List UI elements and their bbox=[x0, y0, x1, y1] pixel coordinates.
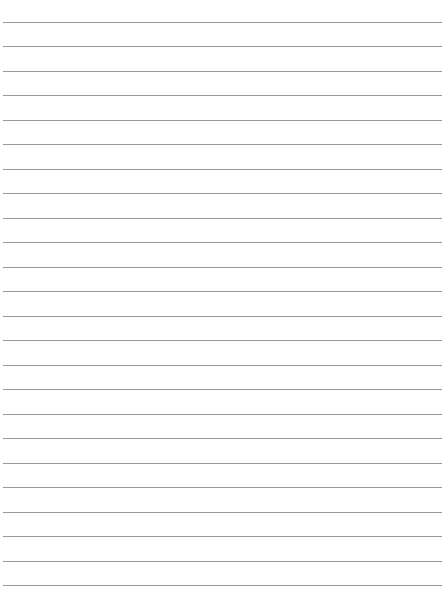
ruled-line bbox=[3, 438, 442, 439]
ruled-line bbox=[3, 536, 442, 537]
ruled-line bbox=[3, 267, 442, 268]
ruled-line bbox=[3, 487, 442, 488]
ruled-line bbox=[3, 95, 442, 96]
ruled-line bbox=[3, 193, 442, 194]
ruled-line bbox=[3, 71, 442, 72]
ruled-line bbox=[3, 46, 442, 47]
ruled-line bbox=[3, 218, 442, 219]
ruled-line bbox=[3, 463, 442, 464]
ruled-line bbox=[3, 169, 442, 170]
ruled-line bbox=[3, 340, 442, 341]
lined-paper-page bbox=[0, 0, 446, 599]
ruled-line bbox=[3, 120, 442, 121]
ruled-line bbox=[3, 561, 442, 562]
ruled-line bbox=[3, 512, 442, 513]
ruled-line bbox=[3, 365, 442, 366]
ruled-line bbox=[3, 316, 442, 317]
ruled-line bbox=[3, 242, 442, 243]
ruled-line bbox=[3, 144, 442, 145]
ruled-line bbox=[3, 414, 442, 415]
ruled-line bbox=[3, 291, 442, 292]
ruled-line bbox=[3, 22, 442, 23]
ruled-line bbox=[3, 585, 442, 586]
ruled-line bbox=[3, 389, 442, 390]
